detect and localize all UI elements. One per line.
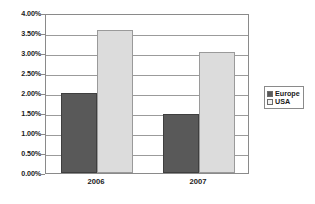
legend-swatch-icon <box>267 91 273 97</box>
bar-europe-2007 <box>163 114 199 173</box>
x-axis-tick-label: 2007 <box>190 178 207 186</box>
y-axis-tick-label: 1.50% <box>21 110 41 117</box>
y-axis: 0.00%0.50%1.00%1.50%2.00%2.50%3.00%3.50%… <box>0 0 44 204</box>
x-axis-tick-label: 2006 <box>88 178 105 186</box>
bar-usa-2006 <box>97 30 133 173</box>
x-axis: 20062007 <box>45 176 249 192</box>
legend-swatch-icon <box>267 99 273 105</box>
bar-europe-2006 <box>61 93 97 173</box>
bars <box>46 15 248 173</box>
legend-item-usa[interactable]: USA <box>267 98 300 105</box>
y-axis-tick-label: 4.00% <box>21 10 41 17</box>
plot-area <box>45 14 249 174</box>
legend-label: Europe <box>275 90 300 97</box>
y-axis-tick-label: 2.50% <box>21 70 41 77</box>
bar-usa-2007 <box>199 52 235 173</box>
y-axis-tick-label: 3.00% <box>21 50 41 57</box>
bar-chart: 0.00%0.50%1.00%1.50%2.00%2.50%3.00%3.50%… <box>0 0 315 204</box>
y-axis-tick-label: 0.50% <box>21 150 41 157</box>
y-axis-tick-label: 1.00% <box>21 130 41 137</box>
chart-legend: EuropeUSA <box>264 86 304 109</box>
y-axis-tick-mark <box>41 174 45 175</box>
legend-item-europe[interactable]: Europe <box>267 90 300 97</box>
y-axis-tick-label: 0.00% <box>21 170 41 177</box>
y-axis-tick-label: 3.50% <box>21 30 41 37</box>
legend-label: USA <box>275 98 290 105</box>
y-axis-tick-label: 2.00% <box>21 90 41 97</box>
